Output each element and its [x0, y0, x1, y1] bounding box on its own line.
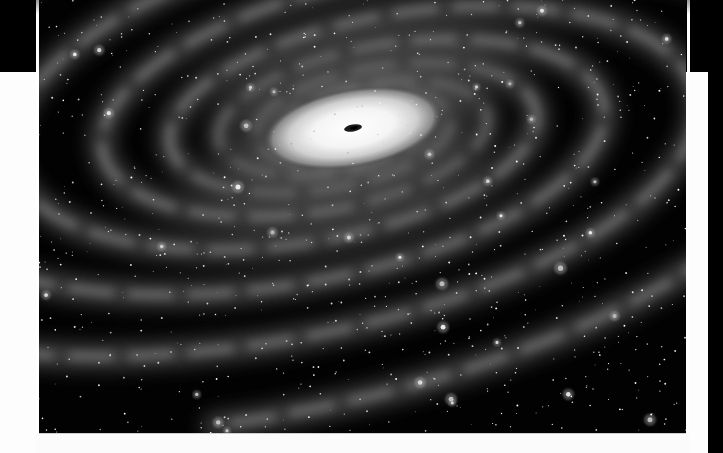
star — [392, 174, 393, 175]
star — [661, 346, 662, 347]
star — [524, 179, 525, 180]
star — [574, 154, 575, 155]
star — [668, 199, 670, 201]
star — [188, 302, 189, 303]
star — [674, 144, 675, 145]
star — [209, 251, 211, 253]
star — [352, 22, 353, 23]
star — [563, 185, 565, 187]
star-glow — [610, 311, 620, 321]
star — [378, 222, 380, 224]
star — [343, 360, 345, 362]
star — [491, 276, 492, 277]
star — [227, 376, 229, 378]
star — [613, 19, 614, 20]
star — [141, 99, 142, 100]
star — [72, 0, 74, 2]
star — [153, 271, 154, 272]
star — [647, 25, 648, 26]
star — [399, 333, 400, 334]
star — [181, 77, 182, 78]
star — [487, 324, 489, 326]
star — [80, 396, 82, 398]
star — [227, 41, 229, 43]
star — [353, 47, 354, 48]
right-black-strip — [708, 0, 723, 453]
star — [434, 313, 435, 314]
star — [96, 25, 97, 26]
star — [47, 347, 48, 348]
star — [217, 366, 218, 367]
star — [683, 295, 685, 297]
star-glow — [268, 227, 278, 237]
star — [659, 157, 660, 158]
star — [144, 365, 146, 367]
star — [415, 411, 416, 412]
star — [540, 249, 542, 251]
star — [437, 180, 438, 181]
star — [191, 285, 192, 286]
star — [245, 414, 247, 416]
star — [140, 128, 142, 130]
star — [646, 247, 647, 248]
star — [425, 430, 427, 432]
star — [618, 336, 619, 337]
star — [138, 387, 139, 388]
star — [604, 347, 605, 348]
star — [495, 307, 497, 309]
star — [357, 329, 358, 330]
star — [257, 157, 259, 159]
star — [623, 325, 625, 327]
star — [542, 406, 543, 407]
star — [266, 418, 268, 420]
star — [108, 313, 110, 315]
star — [587, 15, 589, 17]
star — [463, 47, 465, 49]
star — [516, 413, 517, 414]
star — [523, 163, 524, 164]
star — [659, 363, 661, 365]
star — [599, 354, 601, 356]
star — [589, 405, 591, 407]
star — [475, 65, 476, 66]
star — [629, 57, 630, 58]
star — [101, 94, 102, 95]
star — [635, 349, 636, 350]
star — [382, 364, 383, 365]
star — [388, 421, 389, 422]
star — [430, 399, 431, 400]
star — [654, 118, 656, 120]
star-glow — [213, 417, 224, 428]
star — [122, 292, 123, 293]
star — [436, 403, 438, 405]
star — [613, 84, 614, 85]
star — [558, 48, 560, 50]
star — [259, 89, 260, 90]
star — [369, 424, 370, 425]
star — [137, 8, 138, 9]
star — [121, 33, 123, 35]
star — [391, 50, 392, 51]
star — [332, 204, 334, 206]
star — [188, 153, 189, 154]
star — [582, 235, 584, 237]
star — [608, 399, 609, 400]
star — [110, 332, 112, 334]
star — [104, 114, 106, 116]
star — [64, 33, 65, 34]
star — [596, 78, 598, 80]
star — [74, 326, 76, 328]
star — [286, 340, 288, 342]
star — [647, 376, 648, 377]
star — [369, 271, 370, 272]
star — [505, 337, 506, 338]
star — [559, 268, 561, 270]
star — [659, 380, 661, 382]
star — [378, 175, 380, 177]
star — [491, 185, 492, 186]
star — [501, 81, 503, 83]
star — [582, 36, 584, 38]
star — [407, 125, 409, 127]
star — [385, 296, 386, 297]
star — [325, 266, 327, 268]
